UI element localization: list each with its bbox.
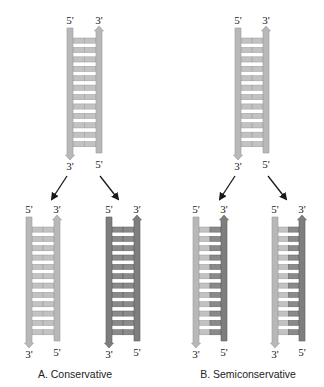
base-pair-rung xyxy=(43,274,54,279)
base-pair-rung xyxy=(32,292,43,297)
base-pair-rung xyxy=(199,236,210,241)
label-5-prime: 5' xyxy=(298,346,306,358)
base-pair-rung xyxy=(123,320,134,325)
base-pair-rung xyxy=(289,274,300,279)
base-pair-rung xyxy=(289,255,300,260)
base-pair-rung xyxy=(32,302,43,307)
base-pair-rung xyxy=(85,132,97,137)
base-pair-rung xyxy=(241,85,252,90)
dna-ladders xyxy=(25,26,307,348)
caption-conservative: A. Conservative xyxy=(38,368,112,380)
label-3-prime: 3' xyxy=(25,348,33,360)
base-pair-rung xyxy=(32,311,43,316)
label-5-prime: 5' xyxy=(192,203,200,215)
strand-5-to-3-down xyxy=(105,217,114,348)
base-pair-rung xyxy=(43,330,54,335)
label-5-prime: 5' xyxy=(53,346,61,358)
base-pair-rung xyxy=(210,274,221,279)
base-pair-rung xyxy=(112,274,123,279)
base-pair-rung xyxy=(241,142,252,147)
base-pair-rung xyxy=(199,320,210,325)
base-pair-rung xyxy=(85,142,97,147)
base-pair-rung xyxy=(199,264,210,269)
base-pair-rung xyxy=(278,330,289,335)
base-pair-rung xyxy=(73,132,85,137)
base-pair-rung xyxy=(210,292,221,297)
base-pair-rung xyxy=(112,264,123,269)
base-pair-rung xyxy=(241,113,252,118)
base-pair-rung xyxy=(85,66,97,71)
base-pair-rung xyxy=(278,246,289,251)
label-5-prime: 5' xyxy=(220,346,228,358)
base-pair-rung xyxy=(123,330,134,335)
strand-5-to-3-down xyxy=(192,217,201,348)
base-pair-rung xyxy=(32,283,43,288)
label-5-prime: 5' xyxy=(66,14,74,26)
arrow-icon xyxy=(268,176,286,199)
base-pair-rung xyxy=(43,283,54,288)
base-pair-rung xyxy=(210,320,221,325)
base-pair-rung xyxy=(112,255,123,260)
base-pair-rung xyxy=(112,320,123,325)
base-pair-rung xyxy=(241,123,252,128)
label-5-prime: 5' xyxy=(262,158,270,170)
base-pair-rung xyxy=(289,246,300,251)
label-3-prime: 3' xyxy=(105,348,113,360)
base-pair-rung xyxy=(73,66,85,71)
base-pair-rung xyxy=(252,142,263,147)
base-pair-rung xyxy=(112,330,123,335)
base-pair-rung xyxy=(32,255,43,260)
base-pair-rung xyxy=(73,85,85,90)
label-3-prime: 3' xyxy=(192,348,200,360)
label-3-prime: 3' xyxy=(234,160,242,172)
base-pair-rung xyxy=(289,292,300,297)
label-5-prime: 5' xyxy=(25,203,33,215)
base-pair-rung xyxy=(123,246,134,251)
base-pair-rung xyxy=(73,113,85,118)
base-pair-rung xyxy=(199,302,210,307)
base-pair-rung xyxy=(252,47,263,52)
label-3-prime: 3' xyxy=(95,14,103,26)
base-pair-rung xyxy=(32,264,43,269)
base-pair-rung xyxy=(252,113,263,118)
strand-5-to-3-up xyxy=(95,26,104,153)
base-pair-rung xyxy=(43,320,54,325)
base-pair-rung xyxy=(32,246,43,251)
strand-5-to-3-up xyxy=(133,215,142,341)
base-pair-rung xyxy=(199,311,210,316)
label-3-prime: 3' xyxy=(298,203,306,215)
base-pair-rung xyxy=(278,311,289,316)
label-5-prime: 5' xyxy=(105,203,113,215)
arrow-icon xyxy=(52,176,67,199)
base-pair-rung xyxy=(85,76,97,81)
base-pair-rung xyxy=(241,57,252,62)
base-pair-rung xyxy=(123,311,134,316)
base-pair-rung xyxy=(252,123,263,128)
base-pair-rung xyxy=(278,292,289,297)
label-3-prime: 3' xyxy=(133,203,141,215)
replication-arrows xyxy=(52,176,286,199)
base-pair-rung xyxy=(252,95,263,100)
parent-dna-0 xyxy=(66,26,104,160)
base-pair-rung xyxy=(85,85,97,90)
base-pair-rung xyxy=(112,227,123,232)
base-pair-rung xyxy=(85,38,97,43)
base-pair-rung xyxy=(123,227,134,232)
base-pair-rung xyxy=(85,47,97,52)
base-pair-rung xyxy=(199,227,210,232)
base-pair-rung xyxy=(252,76,263,81)
base-pair-rung xyxy=(199,255,210,260)
label-3-prime: 3' xyxy=(66,160,74,172)
base-pair-rung xyxy=(210,246,221,251)
base-pair-rung xyxy=(278,236,289,241)
base-pair-rung xyxy=(123,283,134,288)
base-pair-rung xyxy=(278,274,289,279)
base-pair-rung xyxy=(73,76,85,81)
base-pair-rung xyxy=(289,264,300,269)
base-pair-rung xyxy=(199,246,210,251)
base-pair-rung xyxy=(289,283,300,288)
base-pair-rung xyxy=(241,104,252,109)
base-pair-rung xyxy=(210,283,221,288)
base-pair-rung xyxy=(289,227,300,232)
base-pair-rung xyxy=(112,292,123,297)
